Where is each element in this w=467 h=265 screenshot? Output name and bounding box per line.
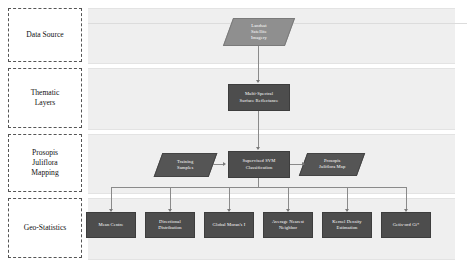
stage-label-data-source: Data Source	[8, 8, 82, 62]
connector-bus-drop-6	[406, 187, 407, 211]
stage-label-text: Geo-Statistics	[24, 223, 67, 233]
node-label: Landsat Satellite Imagery	[251, 23, 267, 42]
connector-bus-drop-1	[111, 187, 112, 211]
arrowhead-prosopis-map	[302, 162, 305, 166]
arrowhead-svm	[256, 147, 260, 150]
node-label: Supervised SVM Classification	[243, 158, 276, 170]
stage-label-prosopis-juliflora-mapping: Prosopis Juliflora Mapping	[8, 134, 82, 192]
node-global-morans-i[interactable]: Global Moran's I	[204, 212, 254, 238]
node-label: Training Samples	[177, 159, 193, 171]
node-getis-ord-gi[interactable]: Getis-ord Gi*	[381, 212, 431, 238]
connector-bus-drop-2	[170, 187, 171, 211]
connector-svm-to-bus	[258, 178, 259, 187]
node-supervised-svm-classification[interactable]: Supervised SVM Classification	[228, 151, 290, 178]
node-average-nearest-neighbor[interactable]: Average Nearest Neighbor	[263, 212, 313, 238]
connector-bus-drop-5	[347, 187, 348, 211]
node-landsat-satellite-imagery[interactable]: Landsat Satellite Imagery	[223, 18, 295, 46]
stage-label-text: Prosopis Juliflora Mapping	[31, 148, 58, 179]
node-directional-distribution[interactable]: Directional Distribution	[145, 212, 195, 238]
node-multi-spectral-surface-reflectance[interactable]: Multi-Spectral Surface Reflectance	[228, 84, 290, 111]
node-kernel-density-estimation[interactable]: Kernel Density Estimation	[322, 212, 372, 238]
node-label: Prosopis Juliflora Map	[319, 158, 345, 170]
stage-label-thematic-layers: Thematic Layers	[8, 68, 82, 128]
stage-label-text: Thematic Layers	[31, 88, 60, 109]
node-label: Global Moran's I	[213, 222, 246, 228]
connector-bus-drop-3	[229, 187, 230, 211]
node-label: Directional Distribution	[158, 219, 181, 231]
node-training-samples[interactable]: Training Samples	[154, 153, 218, 177]
connector-distribution-bus	[111, 187, 406, 188]
node-label: Average Nearest Neighbor	[272, 219, 304, 231]
connector-landsat-to-reflectance	[258, 46, 259, 82]
node-mean-centre[interactable]: Mean Centre	[86, 212, 136, 238]
node-label: Getis-ord Gi*	[393, 222, 420, 228]
arrowhead-reflectance	[256, 80, 260, 83]
node-prosopis-juliflora-map[interactable]: Prosopis Juliflora Map	[299, 153, 365, 176]
arrowhead-svm-left	[223, 162, 226, 166]
stage-label-text: Data Source	[26, 30, 63, 40]
node-label: Mean Centre	[99, 222, 124, 228]
node-label: Multi-Spectral Surface Reflectance	[240, 91, 279, 103]
connector-bus-drop-4	[288, 187, 289, 211]
stage-label-geo-statistics: Geo-Statistics	[8, 198, 82, 258]
connector-reflectance-to-svm	[258, 111, 259, 149]
node-label: Kernel Density Estimation	[332, 219, 361, 231]
